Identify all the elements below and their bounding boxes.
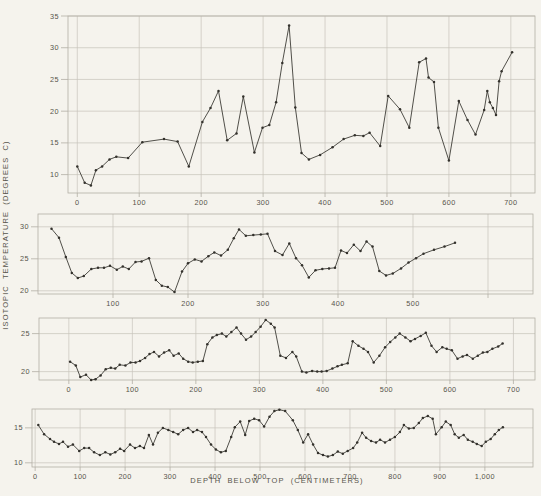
panel-2: 100200300400500202530	[20, 214, 533, 308]
x-tick-label: 300	[256, 198, 269, 207]
isotope-depth-figure: 0100200300400500600700101520253035100200…	[0, 0, 541, 496]
x-tick-label: 600	[442, 198, 455, 207]
x-tick-label: 500	[380, 198, 393, 207]
y-tick-label: 10	[14, 458, 23, 467]
tick-labels: 100200300400500202530	[20, 222, 420, 308]
x-tick-label: 400	[318, 198, 331, 207]
x-tick-label: 100	[73, 472, 86, 481]
data-point-markers	[76, 24, 513, 186]
x-tick-label: 500	[406, 299, 419, 308]
panel-4: 01002003004005006007008009001,0001015	[14, 408, 533, 481]
x-tick-label: 100	[106, 299, 119, 308]
x-tick-label: 200	[189, 385, 202, 394]
x-tick-label: 400	[316, 385, 329, 394]
tick-labels: 01002003004005006007002025	[21, 329, 520, 394]
y-tick-label: 15	[50, 138, 59, 147]
y-tick-label: 20	[50, 107, 59, 116]
plot-border	[39, 318, 535, 380]
x-tick-label: 600	[443, 385, 456, 394]
plot-border	[68, 16, 535, 193]
x-tick-label: 700	[507, 385, 520, 394]
data-line	[70, 320, 503, 380]
y-tick-label: 10	[50, 170, 59, 179]
x-tick-label: 200	[181, 299, 194, 308]
x-tick-label: 700	[504, 198, 517, 207]
y-tick-label: 25	[20, 254, 29, 263]
plot-border	[38, 214, 533, 294]
x-tick-label: 200	[194, 198, 207, 207]
tick-marks	[32, 334, 513, 384]
y-axis-label: ISOTOPIC TEMPERATURE (DEGREES C)	[1, 35, 13, 435]
tick-marks	[25, 428, 485, 471]
x-tick-label: 500	[380, 385, 393, 394]
x-axis-label: DEPTH BELOW TOP (CENTIMETERS)	[127, 476, 427, 485]
data-line	[52, 229, 456, 292]
x-tick-label: 300	[253, 385, 266, 394]
gridlines	[39, 318, 535, 380]
y-tick-label: 30	[20, 222, 29, 231]
x-tick-label: 100	[133, 198, 146, 207]
x-tick-label: 1,000	[475, 472, 495, 481]
x-tick-label: 100	[126, 385, 139, 394]
y-tick-label: 15	[14, 423, 23, 432]
data-point-markers	[50, 227, 456, 293]
data-line	[77, 26, 512, 186]
x-tick-label: 0	[75, 198, 79, 207]
gridlines	[38, 214, 533, 294]
x-tick-label: 900	[433, 472, 446, 481]
y-tick-label: 25	[50, 75, 59, 84]
x-tick-label: 0	[67, 385, 71, 394]
panel-3: 01002003004005006007002025	[21, 318, 535, 394]
panel-1: 0100200300400500600700101520253035	[50, 12, 535, 208]
tick-labels: 01002003004005006007008009001,0001015	[14, 423, 495, 481]
x-tick-label: 0	[33, 472, 37, 481]
x-tick-label: 400	[331, 299, 344, 308]
y-tick-label: 30	[50, 43, 59, 52]
gridlines	[68, 16, 535, 193]
tick-marks	[31, 227, 488, 298]
y-tick-label: 20	[21, 367, 30, 376]
line-plots-canvas: 0100200300400500600700101520253035100200…	[0, 0, 541, 496]
y-tick-label: 35	[50, 12, 59, 21]
y-tick-label: 25	[21, 329, 30, 338]
tick-labels: 0100200300400500600700101520253035	[50, 12, 517, 208]
x-tick-label: 300	[256, 299, 269, 308]
y-tick-label: 20	[20, 286, 29, 295]
